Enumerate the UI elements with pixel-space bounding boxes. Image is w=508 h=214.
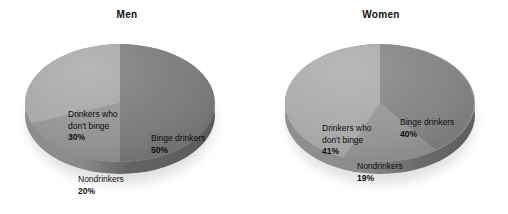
slice-value-dont-binge-men: 30% xyxy=(68,132,118,144)
slice-label-dont-binge-women-line1: Drinkers who xyxy=(322,123,372,133)
slice-label-nondrinkers-women: Nondrinkers 19% xyxy=(357,161,403,184)
slice-label-dont-binge-women-line2: don't binge xyxy=(322,135,363,145)
slice-label-binge-drinkers-men-text: Binge drinkers xyxy=(151,133,205,143)
slice-value-dont-binge-women: 41% xyxy=(322,146,372,158)
slice-label-dont-binge-men-line2: don't binge xyxy=(68,121,109,131)
pie-women: Drinkers who don't binge 41% Binge drink… xyxy=(283,40,479,196)
page-title-women: Women xyxy=(254,9,508,20)
pie-chart-figure: Men xyxy=(0,0,508,214)
pie-men: Drinkers who don't binge 30% Binge drink… xyxy=(23,40,219,196)
page-title-men: Men xyxy=(0,9,254,20)
slice-value-binge-drinkers-women: 40% xyxy=(400,129,454,141)
slice-label-nondrinkers-men: Nondrinkers 20% xyxy=(78,174,124,197)
slice-label-nondrinkers-men-text: Nondrinkers xyxy=(78,174,124,184)
slice-label-binge-drinkers-women-text: Binge drinkers xyxy=(400,117,454,127)
slice-label-nondrinkers-women-text: Nondrinkers xyxy=(357,161,403,171)
slice-label-binge-drinkers-women: Binge drinkers 40% xyxy=(400,117,454,140)
slice-value-binge-drinkers-men: 50% xyxy=(151,145,205,157)
pie-top-face-women xyxy=(285,44,475,162)
slice-label-dont-binge-women: Drinkers who don't binge 41% xyxy=(322,123,372,158)
slice-value-nondrinkers-men: 20% xyxy=(78,186,124,198)
slice-label-dont-binge-men: Drinkers who don't binge 30% xyxy=(68,109,118,144)
chart-panel-men: Men xyxy=(0,0,254,214)
slice-label-dont-binge-men-line1: Drinkers who xyxy=(68,109,118,119)
chart-panel-women: Women xyxy=(254,0,508,214)
slice-label-binge-drinkers-men: Binge drinkers 50% xyxy=(151,133,205,156)
slice-value-nondrinkers-women: 19% xyxy=(357,173,403,185)
